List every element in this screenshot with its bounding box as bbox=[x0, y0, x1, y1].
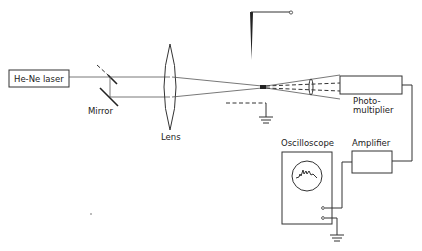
ground-symbol bbox=[330, 235, 344, 241]
lens-label: Lens bbox=[161, 132, 181, 142]
photomultiplier: Photo- multiplier bbox=[340, 76, 402, 115]
amplifier-label: Amplifier bbox=[352, 138, 391, 148]
stray-mark bbox=[90, 213, 92, 215]
needle-electrode bbox=[250, 11, 293, 60]
scope-ground-wire bbox=[325, 218, 337, 235]
oscilloscope: Oscilloscope bbox=[281, 138, 334, 224]
lens: Lens bbox=[161, 44, 181, 142]
mirror: Mirror bbox=[88, 88, 118, 116]
pm-to-amp-wire bbox=[392, 85, 412, 161]
oscilloscope-label: Oscilloscope bbox=[281, 138, 334, 148]
converging-beam-upper bbox=[172, 77, 262, 86]
optical-setup-diagram: He-Ne laser Mirror Lens bbox=[0, 0, 422, 251]
laser-label: He-Ne laser bbox=[14, 74, 64, 84]
ground-symbol bbox=[259, 117, 273, 123]
photomultiplier-label-2: multiplier bbox=[353, 105, 394, 115]
amp-to-scope-wire bbox=[325, 162, 352, 208]
converging-beam-lower bbox=[172, 88, 262, 97]
dashed-plate-electrode bbox=[226, 103, 266, 117]
focal-region bbox=[260, 75, 340, 99]
he-ne-laser: He-Ne laser bbox=[9, 70, 69, 87]
beam-splitter bbox=[97, 65, 117, 84]
waveform-icon bbox=[296, 170, 317, 178]
mirror-label: Mirror bbox=[88, 106, 114, 116]
amplifier: Amplifier bbox=[352, 138, 392, 173]
